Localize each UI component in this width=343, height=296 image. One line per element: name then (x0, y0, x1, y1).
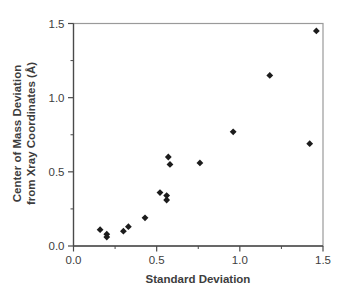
data-point (157, 189, 164, 196)
data-point (167, 161, 174, 168)
data-point (120, 228, 127, 235)
data-point (266, 72, 273, 79)
y-tick-label: 1.5 (49, 18, 65, 30)
y-tick-label: 0.5 (49, 166, 65, 178)
data-point (230, 128, 237, 135)
x-axis-title: Standard Deviation (73, 273, 323, 287)
x-tick-label: 1.0 (232, 254, 248, 266)
y-tick-label: 0.0 (49, 240, 65, 252)
x-tick-label: 1.5 (315, 254, 331, 266)
data-point (306, 140, 313, 147)
data-point (125, 223, 132, 230)
scatter-plot-svg: 0.00.51.01.50.00.51.01.5 (0, 0, 343, 296)
scatter-plot-figure: 0.00.51.01.50.00.51.01.5 Center of Mass … (0, 0, 343, 296)
y-axis-title: Center of Mass Deviation from Xray Coord… (11, 19, 38, 249)
y-axis-title-line2: from Xray Coordinates (Å) (24, 19, 38, 249)
data-point (163, 197, 170, 204)
x-tick-label: 0.0 (66, 254, 82, 266)
data-point (142, 214, 149, 221)
data-point (165, 154, 172, 161)
data-point (197, 160, 204, 167)
y-tick-label: 1.0 (49, 92, 65, 104)
data-point (97, 226, 104, 233)
data-point (313, 28, 320, 35)
y-axis-title-line1: Center of Mass Deviation (11, 19, 25, 249)
plot-frame (74, 24, 324, 247)
x-tick-label: 0.5 (149, 254, 165, 266)
